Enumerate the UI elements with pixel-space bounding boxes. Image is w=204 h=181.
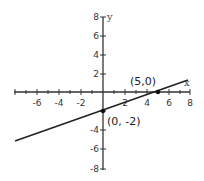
x-tick-label: 4 xyxy=(144,98,150,108)
x-tick-label: 6 xyxy=(166,98,172,108)
y-tick-labels: 8 6 4 2 -4 -6 -8 xyxy=(90,12,99,174)
y-tick-label: 2 xyxy=(93,69,99,79)
x-tick-label: -6 xyxy=(33,98,42,108)
x-axis-label: x xyxy=(184,77,190,88)
point-x-intercept xyxy=(156,90,160,94)
y-tick-label: -4 xyxy=(90,125,99,135)
point-label-x-intercept: (5,0) xyxy=(130,75,156,88)
coordinate-plane: -6 -4 -2 2 4 6 8 8 6 4 2 -4 -6 -8 y x (5… xyxy=(0,0,204,181)
y-tick-label: 8 xyxy=(93,12,99,22)
y-tick-label: -8 xyxy=(90,164,99,174)
y-tick-label: -6 xyxy=(90,144,99,154)
y-tick-label: 6 xyxy=(93,31,99,41)
point-y-intercept xyxy=(101,109,105,113)
y-tick-label: 4 xyxy=(93,50,99,60)
y-axis-label: y xyxy=(106,11,113,22)
x-tick-label: 8 xyxy=(187,98,193,108)
x-tick-label: -2 xyxy=(77,98,86,108)
x-tick-label: -4 xyxy=(55,98,64,108)
point-label-y-intercept: (0, -2) xyxy=(107,115,141,128)
